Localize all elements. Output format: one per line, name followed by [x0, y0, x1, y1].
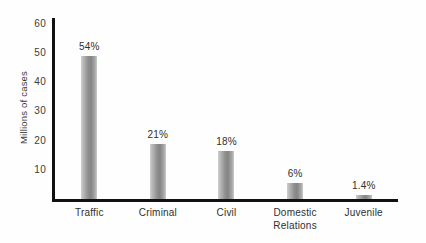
bar	[356, 195, 372, 199]
bar-value-label: 18%	[216, 136, 237, 147]
x-category-label: Domestic Relations	[273, 207, 317, 232]
bar-chart: Millions of cases 102030405060 54%21%18%…	[0, 0, 426, 243]
bar	[150, 144, 166, 199]
x-category-label: Juvenile	[345, 207, 383, 220]
bar	[218, 151, 234, 199]
y-tick-40: 40	[20, 76, 46, 88]
bar-group: 6%	[261, 18, 330, 199]
x-category-label: Criminal	[139, 207, 177, 220]
y-tick-20: 20	[20, 135, 46, 147]
y-tick-label: 40	[20, 76, 46, 87]
bar-group: 1.4%	[329, 18, 398, 199]
y-tick-label: 50	[20, 47, 46, 58]
bar-value-label: 6%	[288, 168, 303, 179]
y-tick-60: 60	[20, 18, 46, 30]
y-tick-label: 10	[20, 164, 46, 175]
x-axis-line	[52, 199, 398, 202]
bar-value-label: 21%	[148, 129, 169, 140]
plot-area: 54%21%18%6%1.4%	[55, 18, 398, 199]
y-tick-10: 10	[20, 164, 46, 176]
x-category-label: Civil	[217, 207, 237, 220]
bar-value-label: 54%	[79, 41, 100, 52]
y-tick-30: 30	[20, 105, 46, 117]
y-tick-label: 30	[20, 105, 46, 116]
scan-artifact-speck	[277, 222, 279, 224]
y-tick-label: 60	[20, 18, 46, 29]
bar	[287, 183, 303, 199]
bar-group: 21%	[124, 18, 193, 199]
bar	[81, 56, 97, 199]
bar-group: 54%	[55, 18, 124, 199]
bar-group: 18%	[192, 18, 261, 199]
x-category-label: Traffic	[75, 207, 104, 220]
bar-value-label: 1.4%	[352, 180, 376, 191]
y-tick-label: 20	[20, 135, 46, 146]
y-tick-50: 50	[20, 47, 46, 59]
